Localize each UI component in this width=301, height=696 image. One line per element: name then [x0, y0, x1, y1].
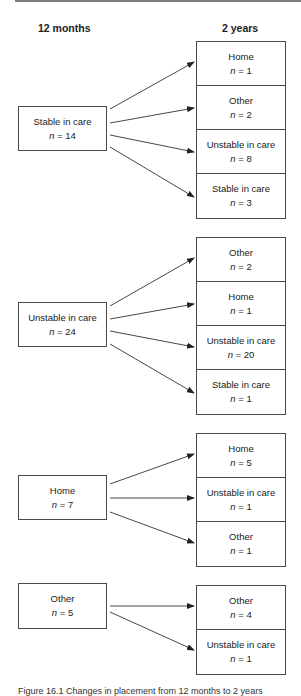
source-label: Home: [50, 484, 75, 498]
source-count: n = 14: [49, 129, 76, 143]
target-cell: Othern = 1: [197, 522, 285, 566]
source-count: n = 7: [52, 498, 73, 512]
target-cell: Othern = 2: [197, 238, 285, 282]
source-box-home: Home n = 7: [18, 475, 107, 520]
target-cell: Stable in caren = 1: [197, 370, 285, 414]
arrow-g1-t1: [110, 62, 194, 109]
target-cell: Stable in caren = 3: [197, 174, 285, 218]
source-label: Stable in care: [33, 115, 91, 129]
target-cell: Unstable in caren = 20: [197, 326, 285, 370]
source-box-unstable-in-care: Unstable in care n = 24: [18, 302, 107, 347]
target-cell: Unstable in caren = 1: [197, 478, 285, 522]
target-cell: Homen = 1: [197, 42, 285, 86]
target-stack-group-1: Homen = 1 Othern = 2 Unstable in caren =…: [196, 41, 286, 219]
target-cell: Unstable in caren = 1: [197, 630, 285, 674]
target-stack-group-4: Othern = 4 Unstable in caren = 1: [196, 585, 286, 675]
source-box-other: Other n = 5: [18, 583, 107, 629]
source-count: n = 24: [49, 325, 76, 339]
source-count: n = 5: [52, 606, 73, 620]
target-stack-group-3: Homen = 5 Unstable in caren = 1 Othern =…: [196, 433, 286, 567]
target-cell: Othern = 2: [197, 86, 285, 130]
target-cell: Othern = 4: [197, 586, 285, 630]
source-label: Other: [51, 592, 75, 606]
source-label: Unstable in care: [28, 311, 97, 325]
target-stack-group-2: Othern = 2 Homen = 1 Unstable in caren =…: [196, 237, 286, 415]
source-box-stable-in-care: Stable in care n = 14: [18, 106, 107, 151]
target-cell: Unstable in caren = 8: [197, 130, 285, 174]
target-cell: Homen = 5: [197, 434, 285, 478]
figure-caption: Figure 16.1 Changes in placement from 12…: [18, 686, 263, 696]
target-cell: Homen = 1: [197, 282, 285, 326]
